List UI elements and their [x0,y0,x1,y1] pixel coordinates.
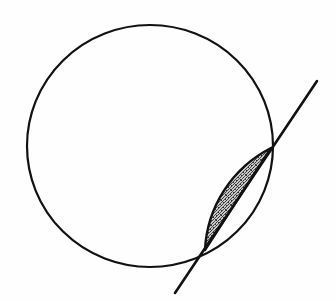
geometry-figure: Circle with secant line and shaded circu… [0,0,336,301]
figure-canvas: Circle with secant line and shaded circu… [0,0,336,301]
figure-background [0,0,336,301]
